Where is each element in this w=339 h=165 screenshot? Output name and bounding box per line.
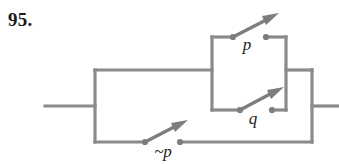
switch-not-p[interactable]: ~p [142, 120, 188, 161]
switch-q-blade [240, 93, 272, 110]
switch-q-contact-dot [269, 107, 275, 113]
switch-q-label: q [249, 109, 258, 128]
switch-p[interactable]: p [230, 13, 279, 54]
switch-p-arrowhead [262, 13, 279, 25]
switching-circuit-diagram: p q ~p [0, 0, 339, 165]
switch-q[interactable]: q [237, 87, 284, 128]
switch-q-arrowhead [267, 87, 284, 99]
switch-p-pivot-dot [230, 34, 236, 40]
switch-not-p-arrowhead [171, 120, 188, 132]
switch-q-pivot-dot [237, 107, 243, 113]
switch-not-p-pivot-dot [142, 139, 148, 145]
switch-not-p-blade [145, 126, 176, 142]
figure-root: 95. [0, 0, 339, 165]
switch-not-p-label: ~p [154, 142, 172, 161]
switch-not-p-contact-dot [177, 139, 183, 145]
switch-p-label: p [242, 35, 252, 54]
switch-p-contact-dot [263, 34, 269, 40]
